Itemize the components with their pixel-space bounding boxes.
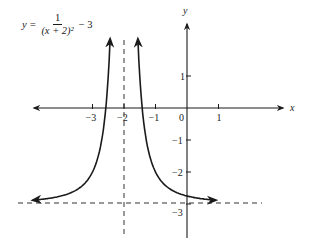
x-tick-label: 1 bbox=[217, 112, 222, 123]
y-tick-label: −3 bbox=[172, 207, 183, 218]
y-tick-label: −1 bbox=[172, 135, 183, 146]
x-tick-label: −1 bbox=[149, 112, 160, 123]
x-axis-label: x bbox=[289, 102, 295, 113]
y-tick-label: −2 bbox=[172, 167, 183, 178]
function-plot: −3−2−1011−1−2−3 x y bbox=[0, 0, 309, 238]
y-axis-label: y bbox=[182, 5, 188, 16]
x-tick-label: −3 bbox=[86, 112, 97, 123]
axis-ticks: −3−2−1011−1−2−3 bbox=[86, 71, 222, 218]
left-branch-curve bbox=[33, 39, 111, 201]
y-tick-label: 1 bbox=[180, 71, 185, 82]
x-tick-label: −2 bbox=[117, 112, 128, 123]
x-tick-label: 0 bbox=[179, 112, 184, 123]
